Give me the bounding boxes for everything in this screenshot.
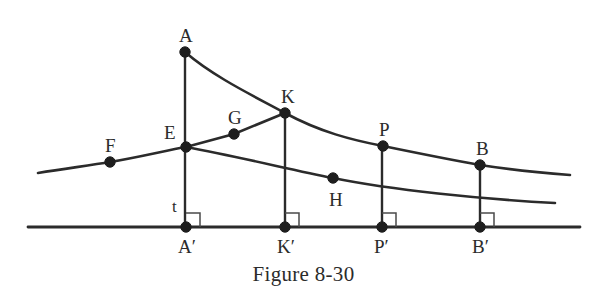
point-marker-A′ [181,222,191,232]
figure-8-30: AFEGKHPBA′K′P′B′t Figure 8-30 [0,0,607,305]
point-marker-E [181,142,191,152]
point-marker-B [475,160,485,170]
point-marker-G [229,129,239,139]
point-marker-P [378,141,388,151]
upper-curve-A-K-P-B [185,52,570,175]
right-angle-marks-group [186,213,494,227]
figure-canvas [0,0,607,305]
point-marker-F [105,157,115,167]
point-label-P′: P′ [374,237,389,256]
point-label-K′: K′ [277,237,295,256]
point-label-F: F [105,136,116,155]
point-marker-B′ [475,222,485,232]
point-label-E: E [164,123,176,142]
point-label-H: H [329,190,343,209]
figure-caption: Figure 8-30 [0,262,607,287]
point-marker-K [280,108,290,118]
point-label-A′: A′ [178,237,196,256]
point-marker-K′ [280,222,290,232]
point-label-P: P [379,120,390,139]
point-label-B: B [476,139,489,158]
point-label-G: G [228,108,242,127]
segment-label-t: t [172,198,177,215]
point-markers-group [105,47,485,232]
point-label-B′: B′ [472,237,489,256]
point-marker-H [328,173,338,183]
point-marker-P′ [377,222,387,232]
point-marker-A [180,47,190,57]
point-label-K: K [281,87,295,106]
point-label-A: A [179,26,193,45]
